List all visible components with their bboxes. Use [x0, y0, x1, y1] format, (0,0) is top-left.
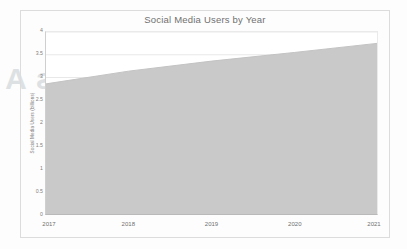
plot-area: [45, 31, 378, 215]
chart-title: Social Media Users by Year: [20, 14, 390, 25]
y-tick-label: 3: [20, 74, 43, 79]
area-series-plot: [46, 32, 377, 214]
y-axis-tick-labels: 00.511.522.533.54: [20, 31, 43, 215]
y-tick-label: 2.5: [20, 97, 43, 102]
y-tick-label: 0: [20, 212, 43, 217]
x-tick-label: 2018: [122, 218, 135, 230]
x-tick-label: 2020: [288, 218, 301, 230]
x-tick-label: 2017: [42, 218, 55, 230]
y-tick-label: 0.5: [20, 189, 43, 194]
y-tick-label: 1.5: [20, 143, 43, 148]
chart-figure: Applications A ne Social Media Users by …: [0, 0, 407, 249]
y-tick-label: 1: [20, 166, 43, 171]
x-axis-tick-labels: 20172018201920202021: [45, 218, 378, 230]
y-tick-label: 4: [20, 28, 43, 33]
x-tick-label: 2021: [367, 218, 380, 230]
area-fill: [46, 43, 377, 214]
y-tick-label: 2: [20, 120, 43, 125]
y-tick-label: 3.5: [20, 51, 43, 56]
x-tick-label: 2019: [205, 218, 218, 230]
